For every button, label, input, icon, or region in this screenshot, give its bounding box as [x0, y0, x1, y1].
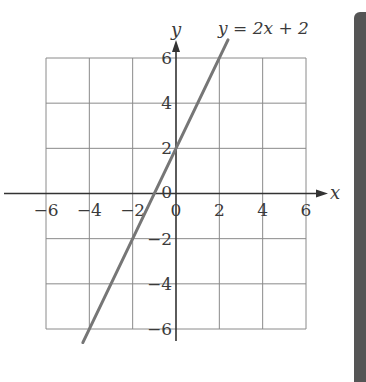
x-tick-label: 4 — [257, 200, 268, 220]
y-tick-label: 6 — [161, 48, 172, 68]
series-line — [83, 40, 228, 343]
x-axis-label: x — [330, 182, 340, 203]
x-tick-label: −4 — [77, 200, 102, 220]
series-group — [83, 40, 228, 343]
y-axis-label: y — [170, 19, 182, 40]
origin-label: 0 — [161, 182, 172, 202]
x-tick-label: 0 — [171, 200, 182, 220]
x-tick-label: 2 — [214, 200, 225, 220]
x-axis-arrow-icon — [316, 190, 328, 198]
y-axis-arrow-icon — [172, 40, 180, 52]
y-tick-label: −4 — [147, 274, 172, 294]
equation-text: y = 2x + 2 — [217, 18, 309, 38]
y-tick-label: −6 — [147, 319, 172, 339]
x-tick-label: −6 — [33, 200, 58, 220]
x-tick-label: −2 — [120, 200, 145, 220]
x-tick-label: 6 — [301, 200, 312, 220]
y-tick-label: 2 — [161, 138, 172, 158]
y-tick-label: −2 — [147, 229, 172, 249]
y-tick-label: 4 — [161, 93, 172, 113]
side-bar — [354, 12, 366, 382]
equation-label: y = 2x + 2 — [217, 18, 309, 38]
